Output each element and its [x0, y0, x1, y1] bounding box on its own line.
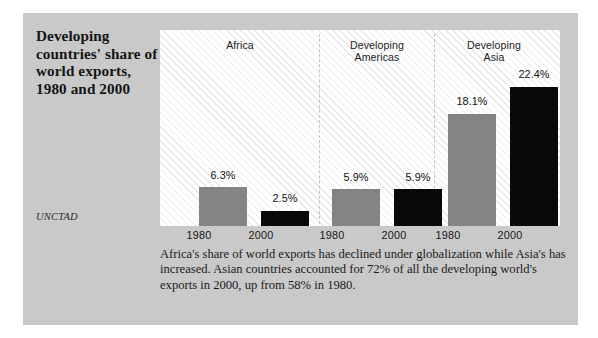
figure-root: Developing countries' share of world exp…: [0, 0, 598, 338]
x-tick-developing-asia-2000: 2000: [480, 229, 540, 241]
chart-plot-area: Africa Developing Americas Developing As…: [160, 30, 560, 226]
group-label-developing-asia: Developing Asia: [442, 39, 546, 64]
figure-caption: Africa's share of world exports has decl…: [160, 247, 570, 293]
group-label-developing-asia-line1: Developing: [442, 39, 546, 51]
figure-sidebar: Developing countries' share of world exp…: [23, 13, 160, 325]
bar-value-africa-2000: 2.5%: [255, 192, 315, 204]
group-label-developing-americas-line2: Americas: [326, 51, 428, 63]
bar-developing-americas-1980: [332, 189, 380, 226]
group-label-developing-asia-line2: Asia: [442, 51, 546, 63]
bar-developing-asia-1980: [448, 114, 496, 226]
group-label-developing-americas-line1: Developing: [326, 39, 428, 51]
x-tick-developing-asia-1980: 1980: [418, 229, 478, 241]
bar-developing-asia-2000: [510, 87, 558, 226]
x-tick-developing-americas-2000: 2000: [364, 229, 424, 241]
bar-value-developing-asia-2000: 22.4%: [502, 68, 566, 80]
bar-developing-americas-2000: [394, 189, 442, 226]
x-tick-africa-2000: 2000: [231, 229, 291, 241]
bar-africa-2000: [261, 211, 309, 227]
figure-card: Developing countries' share of world exp…: [23, 13, 578, 325]
bar-value-developing-asia-1980: 18.1%: [440, 95, 504, 107]
x-tick-developing-americas-1980: 1980: [302, 229, 362, 241]
group-separator-1: [319, 34, 320, 224]
bar-africa-1980: [199, 187, 247, 226]
page-title: Developing countries' share of world exp…: [36, 27, 158, 97]
bar-value-africa-1980: 6.3%: [193, 169, 253, 181]
bar-value-developing-americas-2000: 5.9%: [388, 171, 448, 183]
group-label-africa-line1: Africa: [184, 39, 296, 51]
x-tick-africa-1980: 1980: [169, 229, 229, 241]
source-attribution: UNCTAD: [36, 211, 78, 222]
group-label-developing-americas: Developing Americas: [326, 39, 428, 64]
bar-value-developing-americas-1980: 5.9%: [326, 171, 386, 183]
group-label-africa: Africa: [184, 39, 296, 51]
